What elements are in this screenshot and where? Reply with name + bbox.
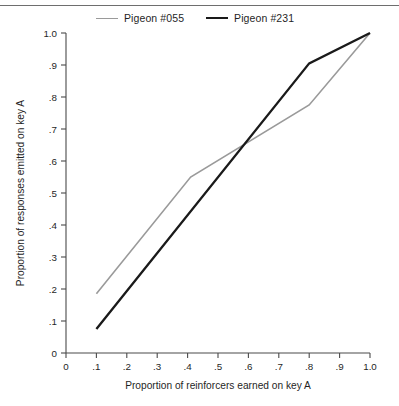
y-axis-tick-label: .1 xyxy=(49,316,57,327)
y-axis-tick-label: .3 xyxy=(49,252,58,263)
x-axis-tick-label: 0 xyxy=(63,361,69,372)
x-axis-tick-label: 1.0 xyxy=(363,361,377,372)
x-axis-tick-label: .1 xyxy=(92,361,100,372)
y-axis-tick-label: 0 xyxy=(52,348,58,359)
y-axis-tick-label: .9 xyxy=(49,60,57,71)
y-axis-tick-label: .4 xyxy=(49,220,58,231)
x-axis-tick-label: .4 xyxy=(184,361,193,372)
y-axis-tick-label: .2 xyxy=(49,284,57,295)
y-axis-title: Proportion of responses emitted on key A xyxy=(15,100,26,287)
y-axis-tick-label: 1.0 xyxy=(43,28,57,39)
figure-container: Pigeon #055 Pigeon #231 0.1.2.3.4.5.6.7.… xyxy=(0,0,399,406)
x-axis-tick-label: .7 xyxy=(275,361,283,372)
x-axis-title: Proportion of reinforcers earned on key … xyxy=(125,380,311,391)
x-axis-tick-label: .3 xyxy=(153,361,162,372)
data-series-layer xyxy=(96,33,370,329)
x-axis-tick-label: .8 xyxy=(305,361,314,372)
axes-layer xyxy=(66,33,370,353)
x-axis-tick-label: .2 xyxy=(123,361,131,372)
series-line-pigeon-055 xyxy=(96,33,370,294)
x-axis-tick-label: .5 xyxy=(214,361,223,372)
series-line-pigeon-231 xyxy=(96,33,370,329)
x-axis-tick-label: .9 xyxy=(336,361,344,372)
tick-labels-layer: 0.1.2.3.4.5.6.7.8.91.00.1.2.3.4.5.6.7.8.… xyxy=(43,28,377,372)
x-axis-tick-label: .6 xyxy=(244,361,253,372)
y-axis-tick-label: .6 xyxy=(49,156,58,167)
y-axis-tick-label: .7 xyxy=(49,124,57,135)
y-axis-tick-label: .8 xyxy=(49,92,58,103)
y-axis-tick-label: .5 xyxy=(49,188,58,199)
line-chart-plot: 0.1.2.3.4.5.6.7.8.91.00.1.2.3.4.5.6.7.8.… xyxy=(0,0,399,406)
ticks-layer xyxy=(61,33,370,358)
